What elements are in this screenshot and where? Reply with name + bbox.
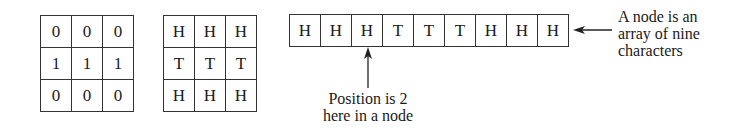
position-annotation-line: Position is 2 <box>302 90 434 107</box>
node-annotation: A node is an array of nine characters <box>618 8 753 59</box>
up-arrow-icon <box>364 47 372 88</box>
position-annotation: Position is 2 here in a node <box>302 90 434 124</box>
node-annotation-line: A node is an <box>618 8 753 25</box>
node-annotation-line: characters <box>618 42 753 59</box>
position-annotation-line: here in a node <box>302 107 434 124</box>
left-arrow-icon <box>573 26 612 34</box>
node-annotation-line: array of nine <box>618 25 753 42</box>
